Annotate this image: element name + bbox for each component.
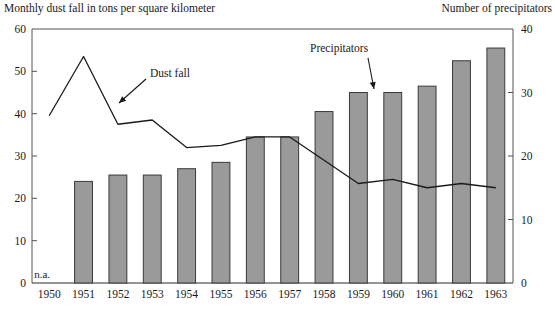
left-tick-30: 30 bbox=[4, 150, 26, 162]
bar-1956 bbox=[246, 137, 264, 283]
bar-1963 bbox=[487, 48, 505, 283]
precipitators-annotation-label: Precipitators bbox=[310, 41, 368, 55]
year-label-1951: 1951 bbox=[66, 288, 100, 301]
year-label-1960: 1960 bbox=[376, 288, 410, 301]
year-label-1953: 1953 bbox=[135, 288, 169, 301]
dust-fall-annotation-label: Dust fall bbox=[150, 66, 190, 80]
year-label-1954: 1954 bbox=[169, 288, 203, 301]
right-tick-0: 0 bbox=[521, 277, 543, 289]
bar-1953 bbox=[143, 175, 161, 283]
year-label-1962: 1962 bbox=[444, 288, 478, 301]
right-tick-10: 10 bbox=[521, 214, 543, 226]
bar-1951 bbox=[75, 181, 93, 283]
year-label-1963: 1963 bbox=[479, 288, 513, 301]
left-tick-40: 40 bbox=[4, 108, 26, 120]
bar-1954 bbox=[178, 169, 196, 283]
left-tick-20: 20 bbox=[4, 192, 26, 204]
bar-1955 bbox=[212, 162, 230, 283]
chart-container: Monthly dust fall in tons per square kil… bbox=[0, 0, 555, 321]
year-label-1950: 1950 bbox=[32, 288, 66, 301]
right-tick-20: 20 bbox=[521, 150, 543, 162]
year-label-1952: 1952 bbox=[101, 288, 135, 301]
precipitators-arrow bbox=[368, 58, 376, 89]
right-tick-30: 30 bbox=[521, 87, 543, 99]
year-label-1955: 1955 bbox=[204, 288, 238, 301]
bar-1958 bbox=[315, 112, 333, 283]
year-label-1957: 1957 bbox=[273, 288, 307, 301]
dust-fall-arrow bbox=[119, 79, 146, 103]
bar-1957 bbox=[281, 137, 299, 283]
bar-1960 bbox=[384, 93, 402, 284]
year-label-1959: 1959 bbox=[341, 288, 375, 301]
not-available-label: n.a. bbox=[34, 268, 50, 280]
right-tick-40: 40 bbox=[521, 23, 543, 35]
year-label-1961: 1961 bbox=[410, 288, 444, 301]
left-tick-0: 0 bbox=[4, 277, 26, 289]
bar-1959 bbox=[349, 93, 367, 284]
bar-1961 bbox=[418, 86, 436, 283]
year-label-1958: 1958 bbox=[307, 288, 341, 301]
bar-1962 bbox=[453, 61, 471, 283]
year-label-1956: 1956 bbox=[238, 288, 272, 301]
left-tick-60: 60 bbox=[4, 23, 26, 35]
chart-plot-area bbox=[0, 0, 555, 321]
bar-1952 bbox=[109, 175, 127, 283]
left-tick-50: 50 bbox=[4, 65, 26, 77]
left-tick-10: 10 bbox=[4, 235, 26, 247]
